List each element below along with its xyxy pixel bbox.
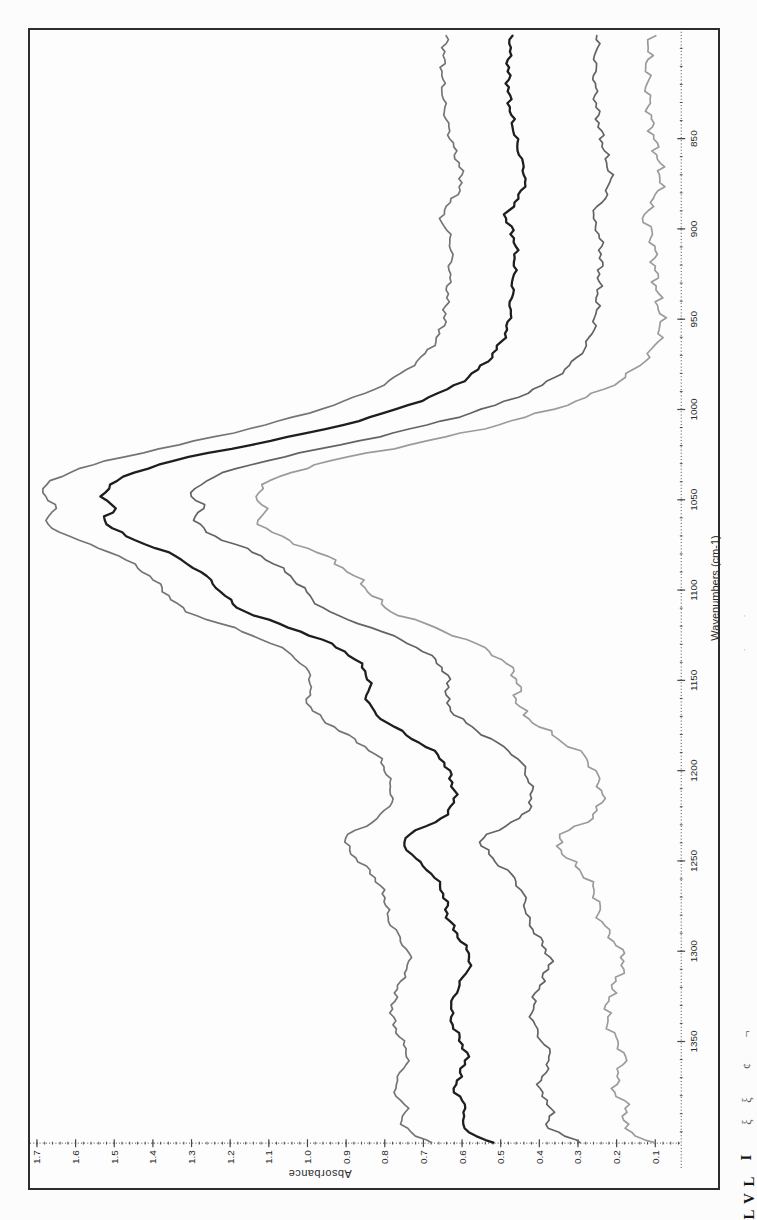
- tick-label: 0.5: [495, 1150, 506, 1164]
- tick-label: 0.1: [650, 1150, 661, 1164]
- spectrum-curve-1: [43, 36, 464, 1143]
- page-edge-fragment: ·: [741, 615, 749, 618]
- tick-label: 1050: [688, 488, 699, 511]
- page-edge-fragment: ·: [741, 649, 749, 652]
- tick-label: 1.3: [186, 1150, 197, 1164]
- page-edge-fragment: I: [739, 1155, 754, 1161]
- tick-label: 0.6: [457, 1150, 468, 1164]
- tick-label: 0.8: [379, 1150, 390, 1164]
- tick-label: 0.3: [572, 1150, 583, 1164]
- tick-label: 1100: [688, 579, 699, 601]
- tick-label: 0.2: [611, 1150, 622, 1164]
- tick-label: 1.2: [225, 1150, 236, 1164]
- page-edge-fragment: ξ: [741, 1119, 753, 1124]
- page-edge-fragment: ¢: [741, 1063, 753, 1069]
- page-edge-fragment: L: [742, 1176, 757, 1186]
- tick-label: 1000: [688, 398, 699, 421]
- ftir-spectra-figure: 0.10.20.30.40.50.60.70.80.91.01.11.21.31…: [28, 28, 720, 1190]
- tick-label: 1.1: [263, 1150, 274, 1164]
- tick-label: 1.4: [147, 1150, 158, 1164]
- tick-label: 900: [688, 220, 699, 237]
- tick-label: 0.7: [418, 1150, 429, 1164]
- tick-label: 1150: [688, 669, 699, 691]
- tick-label: 1.6: [70, 1150, 81, 1164]
- chart-canvas: 0.10.20.30.40.50.60.70.80.91.01.11.21.31…: [30, 30, 718, 1188]
- tick-label: 1200: [688, 759, 699, 782]
- tick-label: 0.4: [534, 1150, 545, 1164]
- tick-label: 1.7: [31, 1150, 42, 1164]
- page-edge-fragment: ¬: [741, 1031, 753, 1038]
- tick-label: 1300: [688, 940, 699, 963]
- page-edge-fragment: V: [742, 1193, 757, 1204]
- tick-label: 1250: [688, 849, 699, 872]
- tick-label: 1350: [688, 1030, 699, 1053]
- tick-label: 950: [688, 310, 699, 327]
- spectrum-curve-2: [100, 36, 525, 1143]
- page-edge-fragment: ξ: [741, 1097, 753, 1102]
- page-edge-fragment: L: [742, 1209, 757, 1219]
- y-axis-title: Absorbance: [288, 1168, 352, 1180]
- tick-label: 850: [688, 130, 699, 147]
- tick-label: 1.5: [109, 1150, 120, 1164]
- tick-label: 1.0: [302, 1150, 313, 1164]
- x-axis-title: Wavenumbers (cm-1): [709, 535, 721, 640]
- spectrum-curve-3: [191, 36, 614, 1143]
- spectrum-curve-4: [256, 36, 666, 1143]
- tick-label: 0.9: [341, 1150, 352, 1164]
